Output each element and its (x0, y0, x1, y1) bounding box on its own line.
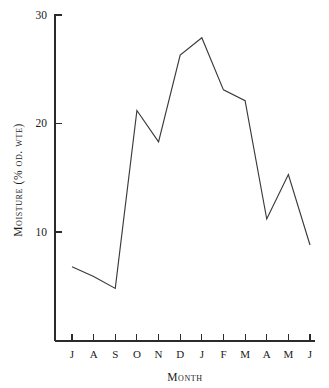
y-tick-label-group: 102030 (36, 9, 48, 238)
moisture-series-line (72, 38, 310, 289)
chart-canvas: 102030 JASONDJFMAMJ Month Moisture (% od… (0, 0, 329, 388)
x-axis-title: Month (167, 371, 202, 383)
x-tick-label-7: F (220, 348, 226, 360)
x-tick-label-6: J (200, 348, 205, 360)
x-tick-label-10: M (283, 348, 293, 360)
y-tick-label-30: 30 (36, 9, 48, 21)
x-tick-label-9: A (263, 348, 271, 360)
x-tick-label-8: M (240, 348, 250, 360)
x-tick-group (72, 334, 310, 341)
x-tick-label-3: O (133, 348, 141, 360)
x-tick-label-0: J (70, 348, 75, 360)
x-tick-label-group: JASONDJFMAMJ (70, 348, 313, 360)
x-tick-label-5: D (176, 348, 184, 360)
y-tick-label-20: 20 (36, 117, 48, 129)
x-tick-label-1: A (90, 348, 98, 360)
y-tick-label-10: 10 (36, 226, 48, 238)
moisture-line-chart: 102030 JASONDJFMAMJ Month Moisture (% od… (0, 0, 329, 388)
y-axis-line (55, 15, 62, 341)
y-axis-title: Moisture (% od. wte) (12, 123, 25, 237)
x-tick-label-4: N (155, 348, 163, 360)
x-tick-label-11: J (308, 348, 313, 360)
x-tick-label-2: S (112, 348, 118, 360)
x-axis-group: JASONDJFMAMJ (55, 334, 315, 360)
y-axis-group: 102030 (36, 9, 63, 341)
y-tick-group (55, 124, 62, 233)
